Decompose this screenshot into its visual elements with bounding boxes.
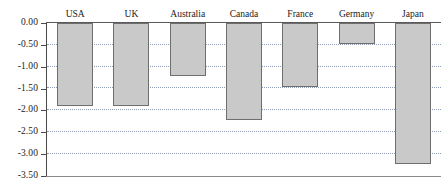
- y-axis-tick-label: -0.50: [0, 39, 38, 49]
- y-axis-tick-label: -3.50: [0, 170, 38, 180]
- bar-usa: [57, 23, 93, 106]
- plot-area: [47, 23, 441, 176]
- y-axis-tick-label: -2.00: [0, 104, 38, 114]
- bar-canada: [226, 23, 262, 120]
- bar-australia: [170, 23, 206, 76]
- bar-chart: 0.00-0.50-1.00-1.50-2.00-2.50-3.00-3.50 …: [0, 0, 445, 192]
- y-axis-tick-label: -1.00: [0, 61, 38, 71]
- y-axis-tick-label: -2.50: [0, 126, 38, 136]
- bar-japan: [395, 23, 431, 164]
- y-axis-tick-label: -3.00: [0, 148, 38, 158]
- plot-bottom-line: [46, 176, 441, 177]
- bar-france: [282, 23, 318, 87]
- y-axis-tick-label: -1.50: [0, 83, 38, 93]
- category-label-japan: Japan: [368, 9, 445, 19]
- bar-germany: [339, 23, 375, 44]
- bar-uk: [113, 23, 149, 106]
